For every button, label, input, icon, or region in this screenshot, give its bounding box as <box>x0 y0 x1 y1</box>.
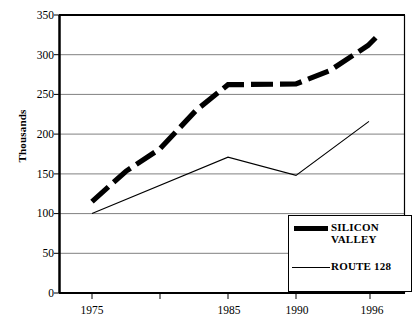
legend-label-silicon-valley: SILICONVALLEY <box>331 221 379 245</box>
legend-entry-silicon-valley: SILICONVALLEY <box>291 221 379 245</box>
series-silicon-valley <box>92 38 376 202</box>
legend-entry-route-128: ROUTE 128 <box>291 260 391 274</box>
thick-dash-swatch <box>291 221 331 235</box>
thin-line-swatch <box>291 260 331 274</box>
series-route-128 <box>92 121 369 213</box>
legend-label-route-128: ROUTE 128 <box>331 260 391 272</box>
chart-legend: SILICONVALLEY ROUTE 128 <box>288 215 412 292</box>
